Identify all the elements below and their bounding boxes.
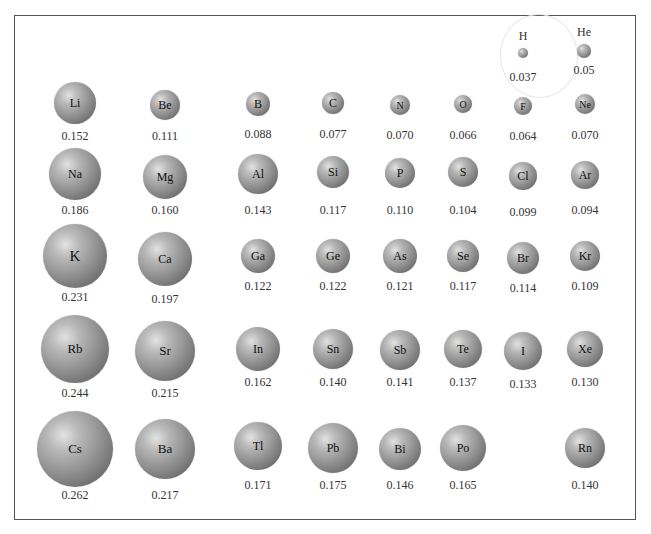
atomic-radius-value: 0.099: [510, 205, 537, 220]
atomic-radius-value: 0.05: [574, 63, 595, 78]
atom-sphere-icon: Se: [447, 240, 479, 272]
atom-sphere-icon: Te: [444, 330, 482, 368]
atom-sphere-icon: Xe: [567, 331, 603, 367]
atomic-radius-value: 0.104: [450, 203, 477, 218]
atomic-radius-value: 0.175: [320, 478, 347, 493]
element-symbol: Kr: [579, 249, 592, 264]
element-symbol: P: [397, 166, 404, 181]
atomic-radius-value: 0.037: [510, 70, 537, 85]
atom-sphere-icon: Sb: [380, 330, 420, 370]
atom-sphere-icon: P: [385, 158, 415, 188]
atomic-radius-value: 0.088: [245, 127, 272, 142]
element-symbol: Cl: [517, 169, 528, 184]
element-symbol: Pb: [327, 441, 340, 456]
atomic-radius-value: 0.231: [62, 290, 89, 305]
atom-sphere-icon: [518, 48, 528, 58]
element-symbol: Be: [158, 98, 171, 113]
atom-sphere-icon: Na: [49, 148, 101, 200]
atom-sphere-icon: Al: [238, 154, 278, 194]
atomic-radius-value: 0.070: [572, 128, 599, 143]
element-symbol: Ga: [251, 249, 265, 264]
atom-sphere-icon: Li: [54, 82, 96, 124]
atom-sphere-icon: Mg: [143, 155, 187, 199]
atom-sphere-icon: In: [236, 327, 280, 371]
atom-sphere-icon: Bi: [379, 428, 421, 470]
atomic-radius-value: 0.110: [387, 203, 414, 218]
atom-sphere-icon: Rb: [41, 315, 109, 383]
element-symbol: Na: [68, 167, 82, 182]
atomic-radius-value: 0.114: [510, 281, 537, 296]
atomic-radius-value: 0.070: [387, 128, 414, 143]
atom-sphere-icon: Si: [317, 156, 349, 188]
element-symbol: Ar: [579, 168, 592, 183]
element-symbol: Li: [70, 96, 81, 111]
atomic-radius-value: 0.215: [152, 386, 179, 401]
element-symbol: H: [519, 29, 528, 44]
atomic-radius-value: 0.160: [152, 203, 179, 218]
element-symbol: Bi: [394, 442, 405, 457]
element-symbol: Sn: [327, 342, 340, 357]
atom-sphere-icon: Cs: [37, 411, 113, 487]
atomic-radius-value: 0.146: [387, 478, 414, 493]
atom-sphere-icon: Po: [440, 425, 486, 471]
element-symbol: Mg: [157, 170, 174, 185]
atom-sphere-icon: O: [454, 95, 472, 113]
element-symbol: Al: [252, 167, 264, 182]
atom-sphere-icon: Pb: [308, 423, 358, 473]
atom-sphere-icon: Cl: [509, 162, 537, 190]
atom-sphere-icon: [577, 44, 591, 58]
element-symbol: Ca: [158, 252, 171, 267]
atomic-radius-value: 0.152: [62, 129, 89, 144]
element-symbol: B: [254, 97, 262, 112]
element-symbol: Po: [457, 441, 470, 456]
element-symbol: Br: [517, 251, 529, 266]
atom-sphere-icon: Ca: [138, 232, 192, 286]
atomic-radius-value: 0.121: [387, 279, 414, 294]
atom-sphere-icon: C: [322, 92, 344, 114]
atomic-radius-value: 0.094: [572, 203, 599, 218]
atomic-radius-value: 0.111: [152, 129, 178, 144]
atom-sphere-icon: Ga: [241, 239, 275, 273]
element-symbol: Si: [328, 165, 338, 180]
element-symbol: N: [396, 100, 403, 111]
atom-sphere-icon: Kr: [570, 241, 600, 271]
atomic-radius-value: 0.122: [245, 279, 272, 294]
element-symbol: Se: [457, 249, 469, 264]
atomic-radius-value: 0.109: [572, 279, 599, 294]
atom-sphere-icon: K: [43, 224, 107, 288]
atom-sphere-icon: Be: [150, 90, 180, 120]
atomic-radius-value: 0.186: [62, 203, 89, 218]
atom-sphere-icon: B: [246, 92, 270, 116]
atom-sphere-icon: I: [504, 332, 542, 370]
atomic-radius-value: 0.137: [450, 375, 477, 390]
element-symbol: Ge: [326, 249, 340, 264]
element-symbol: C: [329, 96, 337, 111]
element-symbol: S: [460, 165, 467, 180]
element-symbol: Rn: [578, 441, 592, 456]
atom-sphere-icon: S: [448, 157, 478, 187]
element-symbol: Ba: [158, 441, 172, 457]
element-symbol: Cs: [68, 441, 82, 457]
atomic-radius-value: 0.162: [245, 375, 272, 390]
element-symbol: Xe: [578, 342, 592, 357]
atomic-radius-value: 0.122: [320, 279, 347, 294]
element-symbol: Tl: [253, 439, 264, 454]
atomic-radius-value: 0.117: [320, 203, 347, 218]
atom-sphere-icon: Br: [507, 242, 539, 274]
atomic-radius-value: 0.133: [510, 377, 537, 392]
atomic-radius-value: 0.262: [62, 488, 89, 503]
element-symbol: Sb: [394, 343, 407, 358]
element-symbol: Sr: [159, 343, 171, 359]
atomic-radius-value: 0.244: [62, 386, 89, 401]
atomic-radius-value: 0.140: [320, 375, 347, 390]
element-symbol: Te: [457, 342, 469, 357]
element-symbol: K: [70, 248, 81, 265]
atom-sphere-icon: Rn: [565, 428, 605, 468]
atom-sphere-icon: Ne: [575, 94, 595, 114]
atomic-radius-value: 0.117: [450, 279, 477, 294]
atom-sphere-icon: Ar: [571, 161, 599, 189]
atomic-radius-value: 0.171: [245, 478, 272, 493]
element-symbol: In: [253, 342, 263, 357]
atom-sphere-icon: As: [383, 239, 417, 273]
element-symbol: As: [393, 249, 406, 264]
